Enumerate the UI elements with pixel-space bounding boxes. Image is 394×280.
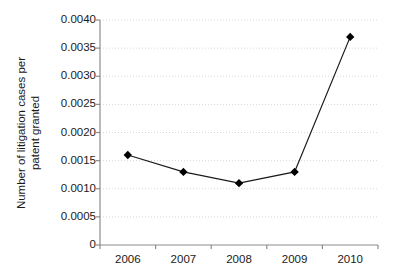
x-tick-label: 2007 xyxy=(153,253,213,265)
line-chart: Number of litigation cases per patent gr… xyxy=(0,0,394,280)
data-point-marker xyxy=(179,168,187,176)
x-axis-tick-marks xyxy=(100,245,378,249)
x-tick-label: 2009 xyxy=(265,253,325,265)
x-tick-label: 2010 xyxy=(320,253,380,265)
data-point-marker xyxy=(346,33,354,41)
plot-area xyxy=(0,0,394,280)
gridlines xyxy=(100,20,378,217)
x-tick-label: 2006 xyxy=(98,253,158,265)
data-point-marker xyxy=(124,151,132,159)
x-tick-label: 2008 xyxy=(209,253,269,265)
data-series-line xyxy=(128,37,350,183)
data-point-marker xyxy=(235,179,243,187)
data-point-marker xyxy=(290,168,298,176)
